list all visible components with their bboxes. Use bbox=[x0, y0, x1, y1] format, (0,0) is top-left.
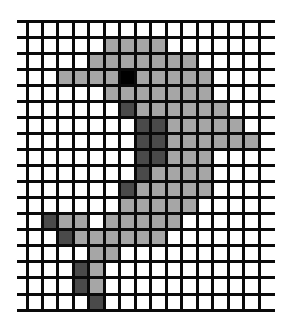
grid-line-vertical bbox=[242, 20, 245, 312]
grid-line-vertical bbox=[180, 20, 183, 312]
grid-line-vertical bbox=[118, 20, 121, 312]
grid-line-vertical bbox=[227, 20, 230, 312]
grid-line-vertical bbox=[26, 20, 29, 312]
pixel-grid-figure bbox=[0, 0, 289, 330]
grid-line-vertical bbox=[103, 20, 106, 312]
grid-line-vertical bbox=[41, 20, 44, 312]
grid-line-vertical bbox=[149, 20, 152, 312]
grid-line-vertical bbox=[56, 20, 59, 312]
grid-line-vertical bbox=[134, 20, 137, 312]
grid-line-vertical bbox=[211, 20, 214, 312]
grid-line-vertical bbox=[87, 20, 90, 312]
grid-line-vertical bbox=[165, 20, 168, 312]
grid-line-vertical bbox=[196, 20, 199, 312]
grid-line-vertical bbox=[258, 20, 261, 312]
grid-line-vertical bbox=[72, 20, 75, 312]
